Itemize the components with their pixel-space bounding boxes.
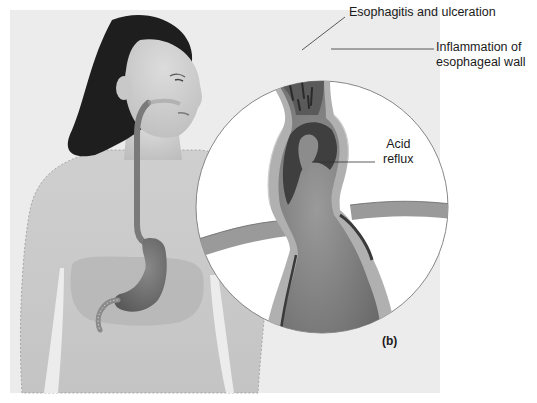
panel-label: (b) [382, 334, 397, 349]
label-line: reflux [383, 152, 414, 167]
label-esophagitis-ulceration: Esophagitis and ulceration [349, 5, 496, 20]
label-line: Acid [383, 137, 414, 152]
label-acid-reflux: Acid reflux [383, 137, 414, 167]
label-line: esophageal wall [436, 55, 526, 70]
label-line: Inflammation of [436, 40, 526, 55]
label-inflammation-esophageal-wall: Inflammation of esophageal wall [436, 40, 526, 70]
